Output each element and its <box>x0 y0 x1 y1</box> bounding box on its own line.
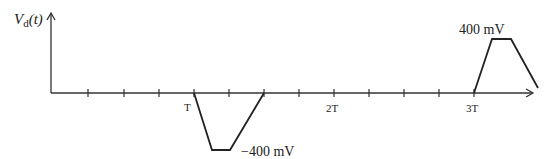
negative-pulse <box>194 93 264 150</box>
positive-pulse-label: 400 mV <box>459 22 505 37</box>
tick-label-3T: 3T <box>466 102 479 114</box>
negative-pulse-label: −400 mV <box>241 144 294 159</box>
positive-pulse <box>474 39 538 93</box>
voltage-waveform-diagram: Vd(t) T 2T 3T −400 mV 400 mV <box>0 0 550 159</box>
tick-label-2T: 2T <box>326 102 339 114</box>
y-axis-label: Vd(t) <box>14 11 43 29</box>
tick-label-T: T <box>184 101 191 113</box>
diagram-canvas: Vd(t) T 2T 3T −400 mV 400 mV <box>0 0 550 159</box>
